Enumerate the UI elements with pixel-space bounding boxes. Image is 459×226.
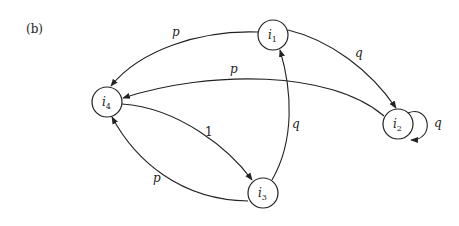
node-i4: i4 [92,87,122,117]
node-i1: i1 [258,20,288,50]
edge-label-i3-i4: p [153,171,161,185]
edge-i1-i2 [288,30,396,108]
node-i3: i3 [248,178,278,208]
node-i2-sub: 2 [397,124,402,133]
edge-i3-i1 [272,50,289,180]
node-i3-sub: 3 [262,193,267,202]
edge-i2-i4 [123,79,384,116]
edge-i1-i4 [111,32,258,86]
node-i2: i2 [383,109,413,139]
edge-label-i1-i2: q [355,46,363,60]
edge-label-i2-self: q [434,116,442,130]
edge-label-i2-i4: p [230,62,238,76]
edge-i3-i4 [112,117,248,201]
edge-i4-i3 [122,104,252,180]
panel-label: (b) [26,22,43,36]
edge-label-i3-i1: q [292,117,300,131]
state-diagram: (b) p q p q 1 p q i1 i2 i3 i4 [0,0,459,226]
node-i4-sub: 4 [106,102,111,111]
edge-label-i4-i3: 1 [205,125,213,139]
node-i1-sub: 1 [272,35,277,44]
edge-label-i1-i4: p [172,25,180,39]
